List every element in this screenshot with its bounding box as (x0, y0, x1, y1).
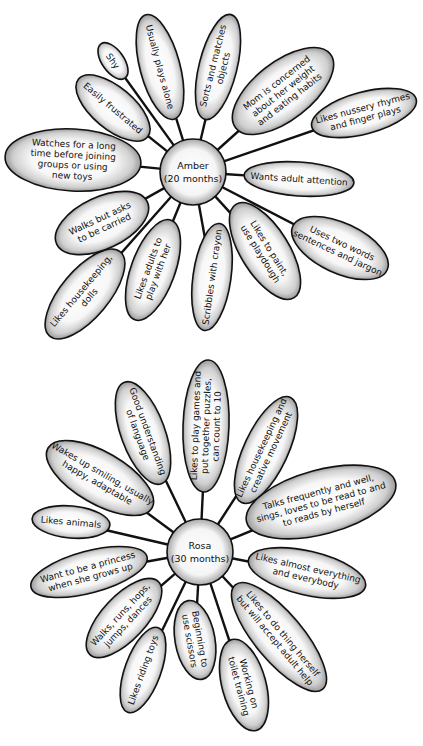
child-age: (30 months) (171, 553, 229, 564)
hub-circle (160, 139, 226, 205)
child-age: (20 months) (164, 173, 222, 184)
petal-games-puzzles: Likes to play games andput together puzz… (181, 359, 232, 493)
hub-circle-group: Amber(20 months) (160, 139, 226, 205)
petal-label-line: new toys (52, 170, 93, 182)
amber-flower-diagram: ShyUsually plays aloneSorts and matcheso… (3, 10, 421, 352)
child-name: Amber (177, 160, 209, 171)
child-name: Rosa (189, 540, 212, 551)
flower-diagrams: ShyUsually plays aloneSorts and matcheso… (0, 0, 423, 746)
rosa-flower-diagram: Likes to play games andput together puzz… (26, 359, 404, 736)
petal-adult-attention: Wants adult attention (243, 158, 355, 200)
petal-scissors: Beginning touse scissors (168, 597, 221, 683)
petal-likes-animals: Likes animals (31, 503, 111, 542)
hub-circle-group: Rosa(30 months) (167, 519, 233, 585)
hub-circle (167, 519, 233, 585)
petal-scribbles: Scribbles with crayon (186, 221, 239, 333)
